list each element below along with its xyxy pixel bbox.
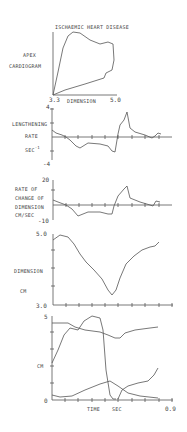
cm-top-tick: 5 [44,313,48,320]
apex-label: APEX [23,52,36,58]
dimension-panel [51,234,173,307]
apex-loop-panel [53,32,117,95]
sec-text: SEC [25,147,35,153]
len-top-tick: 4 [46,103,50,110]
roc-label-1: RATE OF [15,186,37,192]
roc-top-tick: 20 [42,176,49,183]
lengthening-rate-panel [50,108,172,160]
sec-x-label: SEC [112,406,122,412]
cm-bottom-tick: 0 [44,397,48,404]
dim-top-tick: 5.0 [36,230,47,237]
rate-of-change-panel [51,180,172,220]
roc-label-4: CM/SEC [15,212,34,218]
cm-multi-panel [50,316,173,402]
len-bottom-tick: -4 [43,160,50,167]
chart-title: ISCHAEMIC HEART DISEASE [55,24,129,30]
roc-label-2: CHANGE OF [15,195,44,201]
dimension-y-label: DIMENSION [14,268,43,274]
cm-label: CM [37,363,43,369]
sec-exponent: -1 [35,145,40,150]
time-label: TIME [87,406,100,412]
dimension-x-label: DIMENSION [67,98,96,104]
lengthening-label: LENGTHENING [12,121,47,127]
x-tick-0-9: 0.9 [165,405,176,412]
sec-label: SEC-1 [25,145,40,153]
x-tick-3-3: 3.3 [49,96,60,103]
cm-y-label: CM [20,288,26,294]
roc-bottom-tick: -10 [38,217,49,224]
cardiogram-label: CARDIOGRAM [9,63,41,69]
roc-label-3: DIMENSION [15,204,44,210]
x-tick-5-0: 5.0 [110,96,121,103]
dim-bottom-tick: 3.0 [36,302,47,309]
rate-label: RATE [25,133,38,139]
